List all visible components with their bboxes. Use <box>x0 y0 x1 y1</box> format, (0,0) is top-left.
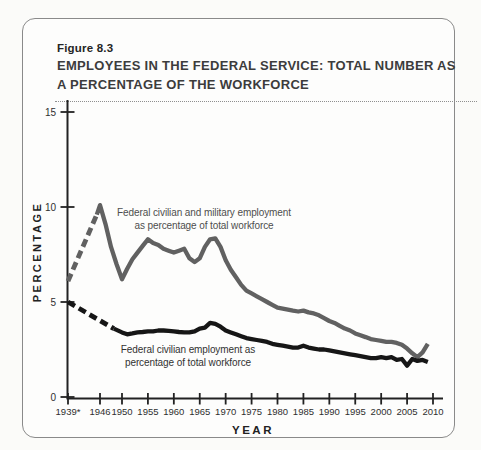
series-label-civilian-only: Federal civilian employment as percentag… <box>121 344 255 369</box>
x-tick-label: 2010 <box>422 406 443 417</box>
x-tick-label: 1970 <box>215 406 236 417</box>
series-civilian-only-dashed-line <box>68 302 114 329</box>
y-tick-label: 10 <box>45 202 57 213</box>
series-civilian-military-dashed-line <box>68 215 97 282</box>
x-tick-label: 2000 <box>371 406 392 417</box>
x-tick-label: 1965 <box>189 406 210 417</box>
series-label-civilian-military-line1: Federal civilian and military employment <box>117 207 291 220</box>
series-label-civilian-military: Federal civilian and military employment… <box>117 207 291 232</box>
x-tick-label: 1946 <box>89 406 110 417</box>
series-label-civilian-only-line2: percentage of total workforce <box>121 357 255 370</box>
x-tick-label: 1950 <box>111 406 132 417</box>
y-tick-label: 5 <box>50 297 56 308</box>
x-tick-label: 1995 <box>345 406 366 417</box>
x-tick-label: 2005 <box>397 406 418 417</box>
y-tick-label: 15 <box>45 107 57 118</box>
x-tick-label: 1985 <box>293 406 314 417</box>
series-label-civilian-military-line2: as percentage of total workforce <box>117 220 291 233</box>
series-label-civilian-only-line1: Federal civilian employment as <box>121 344 255 357</box>
x-tick-label: 1980 <box>267 406 288 417</box>
x-tick-label: 1990 <box>319 406 340 417</box>
y-tick-label: 0 <box>50 392 56 403</box>
y-axis-title: PERCENTAGE <box>31 202 43 303</box>
x-tick-label: 1975 <box>241 406 262 417</box>
x-tick-label: 1939* <box>56 406 81 417</box>
x-tick-label: 1955 <box>137 406 158 417</box>
x-axis-title: YEAR <box>232 424 274 436</box>
x-tick-label: 1960 <box>163 406 184 417</box>
